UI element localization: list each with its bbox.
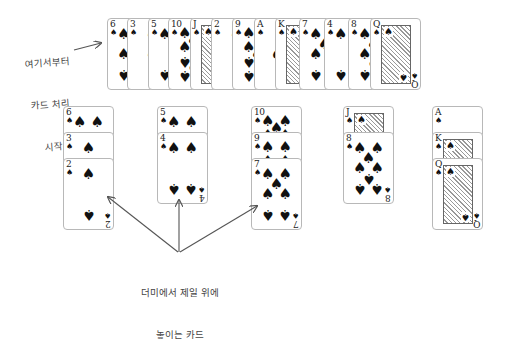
- spade-pip-icon: ♠: [82, 206, 95, 221]
- top-card-line2: 놓이는 카드: [120, 328, 240, 342]
- spade-icon: ♠: [130, 29, 137, 37]
- deal-start-line1: 여기서부터: [17, 54, 78, 72]
- spade-pip-icon: ♠: [185, 180, 198, 195]
- spade-icon: ♠: [66, 143, 73, 151]
- spade-pip-icon: ♠: [334, 27, 347, 42]
- arrow-to-pile-3: [180, 206, 257, 252]
- top-card-line1: 더미에서 제일 위에: [120, 286, 240, 300]
- card-rank-corner: 4: [199, 193, 205, 202]
- spade-pip-icon: ♠: [167, 115, 180, 130]
- spade-pip-icon: ♠: [185, 115, 198, 130]
- face-card-portrait-icon: ♠♠: [381, 25, 411, 84]
- spade-pip-icon: ♠: [371, 180, 384, 195]
- spade-icon: ♠: [214, 29, 221, 37]
- spade-icon: ♠: [411, 71, 418, 79]
- card-rank-corner: 8: [385, 193, 391, 202]
- deal-start-arrow: [74, 43, 101, 50]
- spade-icon: ♠: [435, 117, 442, 125]
- spade-icon: ♠: [66, 169, 73, 177]
- spade-pip-icon: ♠: [279, 206, 292, 221]
- top-card-annotation: 더미에서 제일 위에 놓이는 카드: [120, 258, 240, 343]
- spade-icon: ♠: [373, 29, 380, 37]
- spade-pip-icon: ♠: [167, 141, 180, 156]
- card-rank-corner: Q: [473, 219, 480, 228]
- spade-pip-icon: ♠: [353, 180, 366, 195]
- face-card-portrait-icon: ♠♠: [443, 165, 473, 224]
- spade-pip-icon: ♠: [279, 187, 292, 202]
- spade-icon: ♠: [193, 29, 200, 37]
- spade-icon: ♠: [384, 27, 393, 37]
- spade-pip-icon: ♠: [261, 187, 274, 202]
- deal-row-card-q-spades[interactable]: Q♠Q♠♠♠: [370, 18, 421, 90]
- card-rank-corner: 7: [293, 219, 299, 228]
- spade-icon: ♠: [446, 141, 455, 151]
- spade-icon: ♠: [435, 169, 442, 177]
- pile-3-card-7-spades[interactable]: 7♠7♠♠♠♠♠♠♠♠: [251, 158, 302, 230]
- spade-pip-icon: ♠: [91, 115, 104, 130]
- spade-icon: ♠: [289, 27, 298, 37]
- spade-icon: ♠: [198, 185, 205, 193]
- spade-icon: ♠: [473, 211, 480, 219]
- spade-icon: ♠: [257, 29, 264, 37]
- arrow-to-pile-1: [108, 197, 178, 252]
- spade-icon: ♠: [292, 211, 299, 219]
- spade-pip-icon: ♠: [334, 66, 347, 81]
- spade-icon: ♠: [278, 29, 285, 37]
- card-rank-corner: Q: [411, 79, 418, 88]
- pile-5-card-q-spades[interactable]: Q♠Q♠♠♠: [432, 158, 483, 230]
- pile-1-card-2-spades[interactable]: 2♠2♠♠♠: [63, 158, 114, 230]
- pile-4-card-8-spades[interactable]: 8♠8♠♠♠♠♠♠♠♠♠: [343, 132, 394, 204]
- spade-icon: ♠: [346, 117, 353, 125]
- spade-icon: ♠: [384, 185, 391, 193]
- spade-pip-icon: ♠: [167, 180, 180, 195]
- spade-pip-icon: ♠: [185, 141, 198, 156]
- spade-pip-icon: ♠: [73, 115, 86, 130]
- spade-pip-icon: ♠: [261, 206, 274, 221]
- spade-pip-icon: ♠: [309, 66, 322, 81]
- spade-pip-icon: ♠: [309, 47, 322, 62]
- card-rank-corner: 2: [105, 219, 111, 228]
- spade-pip-icon: ♠: [82, 167, 95, 182]
- spade-icon: ♠: [461, 212, 470, 222]
- spade-icon: ♠: [435, 143, 442, 151]
- spade-pip-icon: ♠: [82, 141, 95, 156]
- spade-icon: ♠: [446, 167, 455, 177]
- spade-icon: ♠: [104, 211, 111, 219]
- pile-2-card-4-spades[interactable]: 4♠4♠♠♠♠♠: [157, 132, 208, 204]
- spade-icon: ♠: [357, 115, 366, 125]
- spade-icon: ♠: [399, 72, 408, 82]
